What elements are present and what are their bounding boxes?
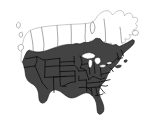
canada-province-border-ontario-west[interactable] xyxy=(85,24,86,43)
long-island[interactable] xyxy=(115,65,121,68)
map-figure: North America outline map xyxy=(0,0,157,127)
haida-gwaii-island[interactable] xyxy=(19,32,23,37)
alaska-panhandle-sliver[interactable] xyxy=(17,22,21,28)
cape-cod-island[interactable] xyxy=(124,60,127,63)
north-america-map[interactable] xyxy=(0,0,157,127)
newfoundland-island[interactable] xyxy=(132,30,138,35)
lake-michigan xyxy=(88,59,92,68)
lake-ontario xyxy=(107,62,112,65)
state-border-sc-ga[interactable] xyxy=(99,87,105,94)
